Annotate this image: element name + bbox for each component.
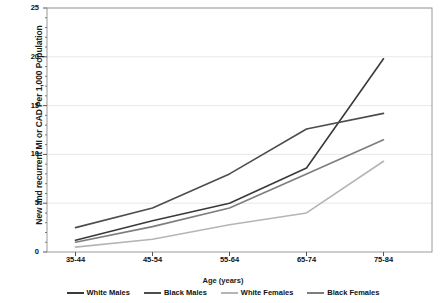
series-line-3	[76, 140, 384, 242]
legend-swatch-icon	[307, 292, 324, 294]
legend-item: Black Females	[307, 288, 379, 297]
y-tick-label: 5	[17, 198, 39, 207]
legend-swatch-icon	[144, 292, 161, 294]
legend-item: White Females	[221, 288, 294, 297]
chart-legend: White MalesBlack MalesWhite FemalesBlack…	[0, 288, 446, 297]
y-tick-label: 15	[17, 101, 39, 110]
legend-item: White Males	[67, 288, 130, 297]
x-tick-label: 75-84	[354, 255, 414, 264]
y-tick-label: 20	[17, 52, 39, 61]
plot-frame	[47, 8, 432, 252]
x-tick-label: 65-74	[277, 255, 337, 264]
series-line-1	[76, 113, 384, 227]
legend-label: White Males	[87, 288, 130, 297]
y-tick-label: 0	[17, 247, 39, 256]
series-line-0	[76, 59, 384, 241]
legend-label: Black Females	[327, 288, 379, 297]
x-tick-label: 45-54	[123, 255, 183, 264]
x-tick-label: 35-44	[46, 255, 106, 264]
legend-label: White Females	[241, 288, 294, 297]
x-axis-title: Age (years)	[0, 276, 446, 285]
chart-figure: New and recurrent MI or CAD Per 1,000 Po…	[0, 0, 446, 303]
legend-swatch-icon	[221, 292, 238, 294]
x-tick-label: 55-64	[200, 255, 260, 264]
y-tick-label: 10	[17, 149, 39, 158]
legend-item: Black Males	[144, 288, 207, 297]
legend-swatch-icon	[67, 292, 84, 294]
y-tick-label: 25	[17, 3, 39, 12]
legend-label: Black Males	[164, 288, 207, 297]
